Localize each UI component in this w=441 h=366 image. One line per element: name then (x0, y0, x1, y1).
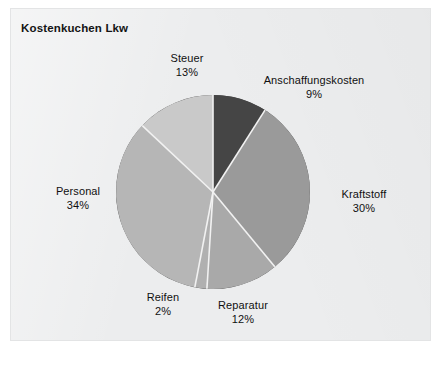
pie-label-anschaffungskosten-name: Anschaffungskosten (248, 74, 380, 88)
pie-label-steuer-name: Steuer (150, 52, 224, 66)
pie-label-kraftstoff-value: 30% (322, 202, 406, 216)
pie-label-personal-name: Personal (37, 185, 119, 199)
pie-label-reparatur: Reparatur 12% (198, 299, 288, 326)
pie-label-reparatur-value: 12% (198, 313, 288, 327)
pie-label-kraftstoff-name: Kraftstoff (322, 188, 406, 202)
pie-label-steuer-value: 13% (150, 66, 224, 80)
pie-slice-group (116, 95, 310, 289)
pie-label-reifen-value: 2% (133, 305, 193, 319)
pie-label-kraftstoff: Kraftstoff 30% (322, 188, 406, 215)
pie-label-anschaffungskosten: Anschaffungskosten 9% (248, 74, 380, 101)
pie-label-reifen-name: Reifen (133, 291, 193, 305)
pie-label-personal: Personal 34% (37, 185, 119, 212)
pie-label-reparatur-name: Reparatur (198, 299, 288, 313)
pie-label-steuer: Steuer 13% (150, 52, 224, 79)
pie-label-reifen: Reifen 2% (133, 291, 193, 318)
pie-label-personal-value: 34% (37, 199, 119, 213)
pie-label-anschaffungskosten-value: 9% (248, 88, 380, 102)
